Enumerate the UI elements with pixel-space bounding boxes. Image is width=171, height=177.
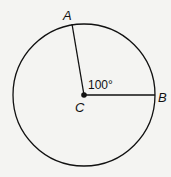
label-a: A [62, 8, 72, 23]
angle-label: 100° [88, 78, 113, 92]
label-b: B [158, 90, 167, 105]
radius-ca [72, 24, 84, 95]
center-point [81, 92, 87, 98]
label-c: C [75, 100, 85, 115]
circle-diagram: A B C 100° [0, 0, 171, 177]
